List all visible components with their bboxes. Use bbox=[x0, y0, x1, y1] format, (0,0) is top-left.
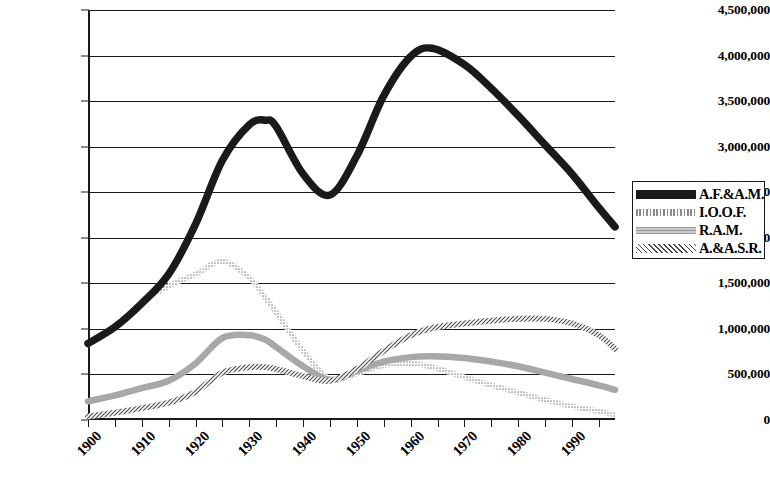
chart-container: 0500,0001,000,0001,500,0002,000,0002,500… bbox=[0, 0, 770, 486]
x-tick-mark bbox=[88, 420, 89, 427]
x-tick-mark bbox=[169, 420, 170, 427]
x-tick-label: 1900 bbox=[73, 428, 105, 460]
legend-swatch-ioof bbox=[636, 209, 696, 216]
legend-item: A.F.&A.M. bbox=[636, 185, 764, 203]
x-tick-mark bbox=[276, 420, 277, 427]
legend: A.F.&A.M. I.O.O.F. R.A.M. A.&A.S.R. bbox=[632, 181, 765, 259]
y-tick-label: 1,000,000 bbox=[688, 321, 770, 337]
y-tick-label: 1,500,000 bbox=[688, 275, 770, 291]
x-tick-mark bbox=[357, 420, 358, 427]
y-tick-label: 3,000,000 bbox=[688, 139, 770, 155]
y-tick-label: 500,000 bbox=[688, 366, 770, 382]
legend-item: I.O.O.F. bbox=[636, 203, 764, 221]
x-tick-mark bbox=[142, 420, 143, 427]
legend-swatch-aasr bbox=[636, 244, 696, 253]
x-tick-mark bbox=[464, 420, 465, 427]
y-tick-label: 4,500,000 bbox=[688, 2, 770, 18]
y-tick-label: 3,500,000 bbox=[688, 93, 770, 109]
x-tick-label: 1930 bbox=[235, 428, 267, 460]
x-tick-mark bbox=[384, 420, 385, 427]
x-tick-label: 1910 bbox=[127, 428, 159, 460]
series-line-ioof bbox=[88, 261, 615, 414]
x-tick-label: 1970 bbox=[450, 428, 482, 460]
legend-label-aasr: A.&A.S.R. bbox=[699, 241, 761, 256]
series-plot bbox=[88, 10, 615, 420]
x-tick-mark bbox=[222, 420, 223, 427]
x-tick-mark bbox=[599, 420, 600, 427]
x-tick-mark bbox=[491, 420, 492, 427]
legend-label-afam: A.F.&A.M. bbox=[699, 187, 764, 202]
x-tick-mark bbox=[411, 420, 412, 427]
x-tick-mark bbox=[115, 420, 116, 427]
x-tick-label: 1940 bbox=[288, 428, 320, 460]
x-tick-mark bbox=[518, 420, 519, 427]
x-tick-mark bbox=[249, 420, 250, 427]
x-tick-label: 1920 bbox=[181, 428, 213, 460]
x-tick-mark bbox=[196, 420, 197, 427]
legend-item: A.&A.S.R. bbox=[636, 239, 764, 257]
x-tick-label: 1980 bbox=[504, 428, 536, 460]
x-tick-mark bbox=[330, 420, 331, 427]
x-tick-label: 1960 bbox=[396, 428, 428, 460]
x-tick-label: 1950 bbox=[342, 428, 374, 460]
series-line-afam bbox=[88, 48, 615, 344]
legend-swatch-afam bbox=[636, 190, 696, 199]
legend-label-ram: R.A.M. bbox=[699, 223, 742, 238]
legend-swatch-ram bbox=[636, 227, 696, 234]
legend-item: R.A.M. bbox=[636, 221, 764, 239]
legend-label-ioof: I.O.O.F. bbox=[699, 205, 746, 220]
x-tick-mark bbox=[303, 420, 304, 427]
x-tick-mark bbox=[545, 420, 546, 427]
y-tick-label: 4,000,000 bbox=[688, 48, 770, 64]
x-tick-label: 1990 bbox=[557, 428, 589, 460]
series-line-ram bbox=[88, 335, 615, 402]
x-tick-mark bbox=[572, 420, 573, 427]
y-tick-label: 0 bbox=[688, 412, 770, 428]
x-tick-mark bbox=[438, 420, 439, 427]
